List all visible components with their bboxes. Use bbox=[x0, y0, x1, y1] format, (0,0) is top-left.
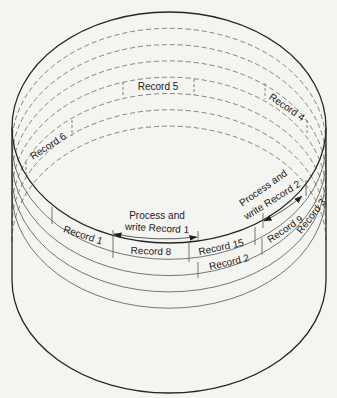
back-track-6 bbox=[12, 110, 326, 226]
drum-diagram: Record 5 Record 4 Record 6 Record 9 Reco… bbox=[0, 0, 337, 398]
process-record-1-line2: write Record 1 bbox=[124, 221, 190, 235]
drum-svg: Record 5 Record 4 Record 6 Record 9 Reco… bbox=[0, 0, 337, 398]
record-2-label: Record 2 bbox=[208, 252, 250, 272]
record-8-label: Record 8 bbox=[131, 245, 172, 257]
process-record-1-line1: Process and bbox=[129, 210, 185, 221]
drum-bottom-arc bbox=[12, 280, 326, 393]
cylinder-outline bbox=[12, 12, 326, 393]
record-4-label: Record 4 bbox=[267, 91, 307, 123]
record-1-label: Record 1 bbox=[62, 223, 104, 246]
record-5-label: Record 5 bbox=[138, 81, 179, 92]
drum-top-ellipse bbox=[12, 12, 326, 243]
